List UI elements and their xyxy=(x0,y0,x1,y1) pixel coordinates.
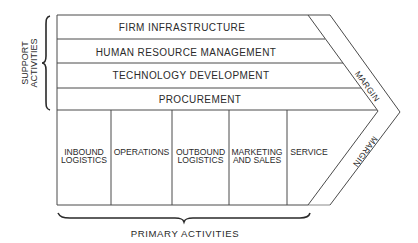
support-row-firm-infrastructure: FIRM INFRASTRUCTURE xyxy=(119,22,245,33)
margin-label-upper: MARGIN xyxy=(353,69,382,103)
primary-column-outbound-logistics: OUTBOUND LOGISTICS xyxy=(176,147,225,165)
primary-column-marketing-and-sales: MARKETING AND SALES xyxy=(231,147,282,165)
column-label-line2: LOGISTICS xyxy=(178,155,224,165)
column-label-line1: SERVICE xyxy=(290,147,328,157)
primary-column-operations: OPERATIONS xyxy=(114,147,170,157)
primary-column-service: SERVICE xyxy=(290,147,328,157)
support-row-technology-development: TECHNOLOGY DEVELOPMENT xyxy=(113,70,270,81)
column-label-line2: LOGISTICS xyxy=(61,155,107,165)
primary-column-inbound-logistics: INBOUND LOGISTICS xyxy=(61,147,107,165)
support-row-human-resource-management: HUMAN RESOURCE MANAGEMENT xyxy=(96,47,277,58)
primary-activities-brace xyxy=(58,213,310,222)
support-activities-brace xyxy=(42,16,50,110)
support-row-procurement: PROCUREMENT xyxy=(159,94,242,105)
support-label-line2: ACTIVITIES xyxy=(29,38,39,87)
column-label-line1: OPERATIONS xyxy=(114,147,170,157)
value-chain-diagram: FIRM INFRASTRUCTURE HUMAN RESOURCE MANAG… xyxy=(0,0,418,243)
primary-activities-label: PRIMARY ACTIVITIES xyxy=(131,228,240,239)
column-label-line2: AND SALES xyxy=(233,155,282,165)
support-activities-label: SUPPORT ACTIVITIES xyxy=(20,38,39,87)
margin-label-lower: MARGIN xyxy=(351,135,380,169)
